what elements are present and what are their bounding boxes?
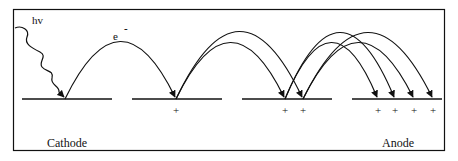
electron-charge-label: - [124, 22, 128, 34]
electron-path [303, 32, 432, 99]
ion-plus-icon: + [392, 104, 398, 116]
electron-path [285, 32, 394, 99]
ion-plus-icon: + [300, 104, 306, 116]
ion-marks: +++++++ [173, 104, 436, 116]
ion-plus-icon: + [375, 104, 381, 116]
anode-label: Anode [382, 136, 414, 150]
photon-label: hv [32, 14, 44, 26]
diagram-frame [14, 10, 445, 151]
electron-label: e [113, 30, 118, 42]
cathode-label: Cathode [47, 136, 87, 150]
ion-plus-icon: + [430, 104, 436, 116]
ion-plus-icon: + [411, 104, 417, 116]
ion-plus-icon: + [173, 104, 179, 116]
electron-path [176, 42, 284, 99]
electron-path [176, 31, 302, 99]
cascade-diagram: +++++++ hv e - Cathode Anode [0, 0, 458, 161]
electron-path [65, 41, 175, 99]
photon-wave-icon [15, 27, 64, 97]
ion-plus-icon: + [282, 104, 288, 116]
electron-trajectories [65, 31, 432, 99]
